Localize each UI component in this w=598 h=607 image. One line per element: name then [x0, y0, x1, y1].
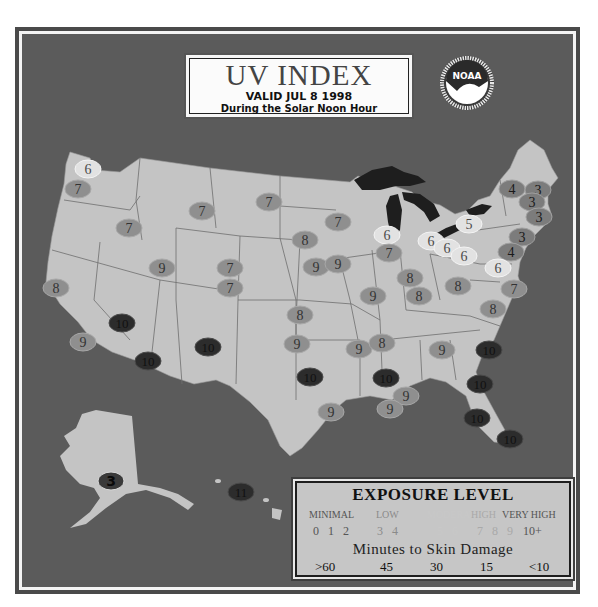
svg-text:8: 8 — [455, 279, 462, 294]
svg-text:8: 8 — [416, 289, 423, 304]
minutes-moderate: 30 — [430, 559, 443, 575]
uv-reading: 7 — [65, 180, 91, 198]
uv-reading: 10 — [497, 430, 523, 448]
uv-reading: 9 — [284, 335, 310, 353]
svg-text:7: 7 — [227, 281, 234, 296]
uv-reading: 6 — [75, 160, 101, 178]
svg-text:3: 3 — [536, 210, 543, 225]
legend-num-high: 7 8 9 — [477, 524, 516, 539]
uv-reading: 9 — [325, 255, 351, 273]
minutes-label: Minutes to Skin Damage — [297, 541, 569, 558]
uv-reading: 4 — [499, 180, 525, 198]
uv-reading: 7 — [256, 193, 282, 211]
noaa-seal-icon: NOAA — [440, 56, 494, 110]
uv-reading: 7 — [376, 244, 402, 262]
uv-reading: 8 — [292, 231, 318, 249]
svg-text:10: 10 — [471, 411, 484, 426]
svg-text:9: 9 — [356, 342, 363, 357]
svg-text:10: 10 — [380, 371, 393, 386]
legend-cat-low: LOW — [376, 509, 399, 520]
svg-text:8: 8 — [297, 308, 304, 323]
svg-text:7: 7 — [266, 195, 273, 210]
legend-num-minimal: 0 1 2 — [313, 524, 352, 539]
svg-text:7: 7 — [199, 204, 206, 219]
lake-superior — [354, 166, 426, 190]
title-subtitle: During the Solar Noon Hour — [190, 103, 408, 115]
uv-reading: 10 — [297, 368, 323, 386]
svg-text:4: 4 — [508, 245, 515, 260]
uv-reading: 8 — [43, 279, 69, 297]
svg-text:9: 9 — [159, 261, 166, 276]
svg-text:NOAA: NOAA — [453, 71, 482, 81]
svg-text:10: 10 — [116, 316, 129, 331]
valid-date: VALID JUL 8 1998 — [190, 90, 408, 103]
svg-text:6: 6 — [495, 261, 502, 276]
svg-text:8: 8 — [379, 336, 386, 351]
svg-text:3: 3 — [519, 230, 526, 245]
legend-num-moderate: 5 6 — [437, 524, 461, 539]
svg-text:9: 9 — [403, 389, 410, 404]
svg-text:9: 9 — [335, 257, 342, 272]
svg-text:6: 6 — [85, 162, 92, 177]
svg-text:5: 5 — [466, 217, 473, 232]
title-box: UV INDEX VALID JUL 8 1998 During the Sol… — [184, 53, 414, 119]
svg-text:3: 3 — [529, 195, 536, 210]
legend-title: EXPOSURE LEVEL — [297, 485, 569, 505]
svg-text:7: 7 — [335, 215, 342, 230]
svg-text:9: 9 — [439, 343, 446, 358]
svg-text:10: 10 — [504, 432, 517, 447]
uv-reading: 10 — [195, 338, 221, 356]
uv-reading: 10 — [373, 369, 399, 387]
legend-num-very-high: 10+ — [523, 524, 542, 539]
legend-cat-minimal: MINIMAL — [309, 509, 354, 520]
alaska-land — [60, 410, 194, 528]
svg-text:3: 3 — [106, 473, 116, 489]
uv-reading: 9 — [149, 259, 175, 277]
svg-text:7: 7 — [227, 261, 234, 276]
uv-reading: 10 — [476, 341, 502, 359]
minutes-very-high: <10 — [529, 559, 549, 575]
uv-reading: 6 — [485, 259, 511, 277]
uv-reading: 7 — [217, 259, 243, 277]
svg-text:9: 9 — [313, 260, 320, 275]
uv-reading: 9 — [360, 287, 386, 305]
svg-text:9: 9 — [80, 335, 87, 350]
uv-reading: 8 — [287, 306, 313, 324]
uv-reading: 11 — [228, 483, 254, 501]
minutes-low: 45 — [380, 559, 393, 575]
uv-reading: 4 — [498, 243, 524, 261]
uv-reading: 8 — [369, 334, 395, 352]
svg-text:4: 4 — [509, 182, 516, 197]
uv-reading: 6 — [451, 247, 477, 265]
uv-reading: 10 — [135, 352, 161, 370]
uv-reading: 9 — [303, 258, 329, 276]
uv-reading: 10 — [464, 409, 490, 427]
uv-reading: 9 — [346, 340, 372, 358]
uv-reading: 7 — [217, 279, 243, 297]
uv-reading: 3 — [98, 472, 124, 490]
uv-reading: 9 — [429, 341, 455, 359]
svg-text:9: 9 — [387, 402, 394, 417]
minutes-minimal: >60 — [315, 559, 335, 575]
minutes-high: 15 — [480, 559, 493, 575]
contiguous-us-land — [46, 140, 558, 456]
uv-reading: 8 — [406, 287, 432, 305]
uv-reading: 7 — [325, 213, 351, 231]
uv-reading: 9 — [70, 333, 96, 351]
svg-text:10: 10 — [142, 354, 155, 369]
svg-text:7: 7 — [126, 221, 133, 236]
uv-reading: 8 — [397, 269, 423, 287]
page-title: UV INDEX — [190, 60, 408, 90]
legend-cat-high: HIGH — [471, 509, 496, 520]
exposure-legend: EXPOSURE LEVEL MINIMAL LOW MODERATE HIGH… — [291, 477, 575, 581]
uv-reading: 7 — [501, 280, 527, 298]
svg-text:6: 6 — [461, 249, 468, 264]
uv-reading: 6 — [374, 226, 400, 244]
uv-reading: 3 — [526, 208, 552, 226]
svg-text:10: 10 — [483, 343, 496, 358]
svg-text:6: 6 — [384, 228, 391, 243]
svg-text:8: 8 — [302, 233, 309, 248]
uv-reading: 9 — [318, 403, 344, 421]
svg-text:9: 9 — [294, 337, 301, 352]
svg-text:8: 8 — [407, 271, 414, 286]
